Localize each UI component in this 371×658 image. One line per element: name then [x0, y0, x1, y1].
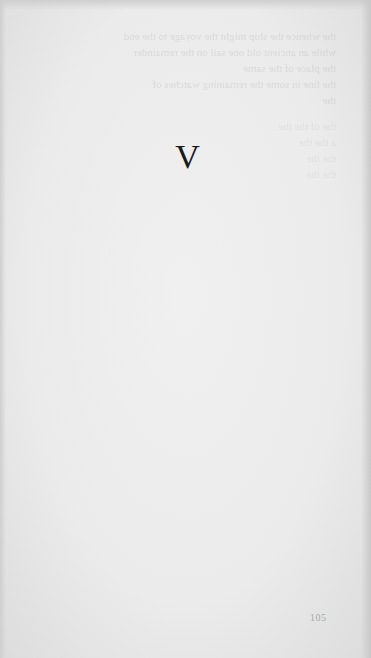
page-edge-shadow-right — [361, 0, 371, 658]
chapter-heading: V — [0, 138, 371, 176]
bleed-line: the of the the . — [16, 118, 336, 134]
bleed-line: the whence the ship might the voyage to … — [16, 28, 336, 44]
bleed-through-text-upper: the whence the ship might the voyage to … — [16, 28, 336, 108]
book-page: the whence the ship might the voyage to … — [0, 0, 371, 658]
page-edge-shadow-top — [0, 0, 371, 10]
bleed-line: the place of the same — [16, 60, 336, 76]
bleed-line: the — [16, 92, 336, 108]
bleed-line: the line in some the remaining watches o… — [16, 76, 336, 92]
bleed-line: while an ancient old one sail on the rem… — [16, 44, 336, 60]
page-edge-shadow-left — [0, 0, 6, 658]
page-number: 105 — [310, 612, 327, 623]
